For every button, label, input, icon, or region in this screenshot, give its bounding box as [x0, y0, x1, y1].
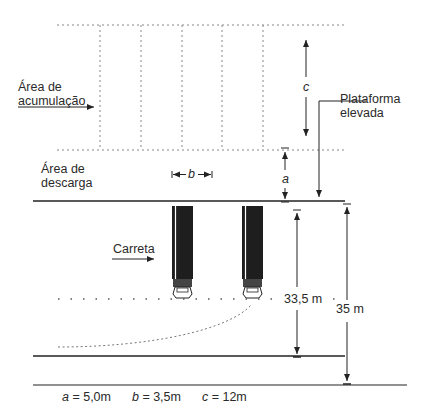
legend-b: b = 3,5m — [132, 390, 181, 404]
accumulation-area-label-line2: acumulação — [18, 94, 85, 108]
unloading-area-label: Área de descarga — [41, 162, 92, 190]
truck-2 — [242, 206, 263, 298]
truck-label: Carreta — [113, 242, 155, 256]
dim-inner-label: 33,5 m — [282, 292, 324, 306]
legend-a: a = 5,0m — [62, 390, 111, 404]
dim-b-label: b — [188, 167, 195, 181]
truck-1 — [172, 206, 193, 298]
accumulation-area-label-line1: Área de — [18, 80, 85, 94]
truck-turning-path — [58, 304, 252, 347]
accumulation-area-grid — [57, 25, 345, 150]
loading-dock-diagram — [0, 0, 427, 420]
legend-c-value: = 12m — [208, 390, 247, 404]
dim-a-label: a — [282, 172, 289, 186]
legend-b-symbol: b — [132, 390, 139, 404]
accumulation-area-label: Área de acumulação — [18, 80, 85, 108]
legend-a-value: = 5,0m — [69, 390, 111, 404]
unloading-area-label-line1: Área de — [41, 162, 92, 176]
elevated-platform-label-line1: Plataforma — [340, 92, 400, 106]
elevated-platform-label: Plataforma elevada — [340, 92, 400, 120]
unloading-area-label-line2: descarga — [41, 176, 92, 190]
legend-b-value: = 3,5m — [139, 390, 181, 404]
legend-c: c = 12m — [202, 390, 247, 404]
dim-c-label: c — [303, 80, 309, 94]
legend: a = 5,0m b = 3,5m c = 12m — [62, 390, 247, 404]
elevated-platform-label-line2: elevada — [340, 106, 400, 120]
dim-outer-label: 35 m — [334, 302, 366, 316]
legend-a-symbol: a — [62, 390, 69, 404]
